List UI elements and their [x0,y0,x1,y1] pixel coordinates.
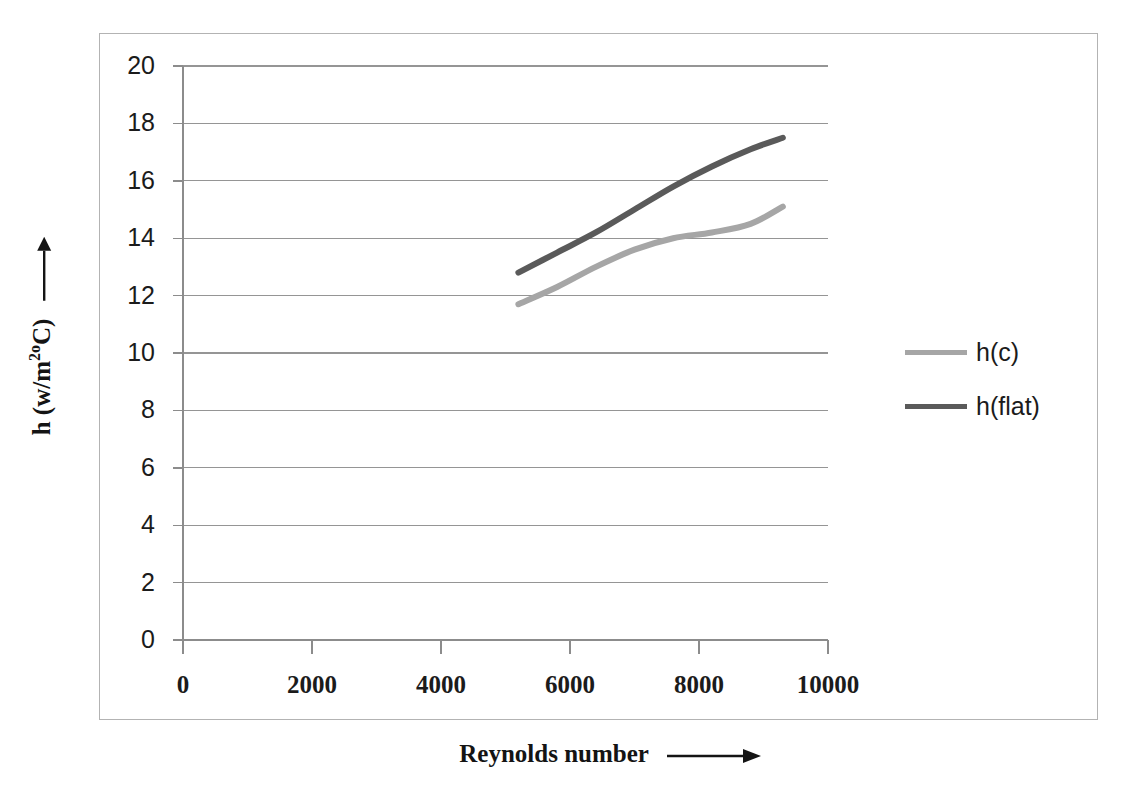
gridlines [183,66,828,640]
legend-item: h(c) [905,325,1095,379]
y-axis-title-tail: C) [28,319,55,345]
up-arrow-icon [30,236,58,302]
x-tick-label: 6000 [500,672,640,697]
y-axis-title: h (w/m2oC) [26,186,58,486]
y-tick-label: 6 [95,455,155,480]
y-tick-label: 0 [95,627,155,652]
x-tick-label: 2000 [242,672,382,697]
legend-label: h(c) [976,338,1019,367]
x-tick-label: 10000 [758,672,898,697]
x-tick-marks [183,640,828,654]
legend-line-swatch [905,404,967,409]
x-tick-label: 8000 [629,672,769,697]
y-tick-marks [173,66,183,640]
y-axis-title-superscript: 2o [26,345,43,361]
y-tick-label: 14 [95,225,155,250]
x-tick-label: 0 [113,672,253,697]
y-tick-label: 2 [95,570,155,595]
y-tick-label: 12 [95,283,155,308]
axis-lines [183,66,828,648]
legend-item: h(flat) [905,379,1095,433]
y-tick-label: 8 [95,397,155,422]
y-tick-label: 4 [95,512,155,537]
legend-line-swatch [905,350,967,355]
x-axis-title: Reynolds number [400,740,820,770]
x-axis-title-text: Reynolds number [459,740,648,767]
chart-legend: h(c)h(flat) [905,325,1095,433]
y-tick-label: 16 [95,168,155,193]
x-tick-label: 4000 [371,672,511,697]
data-series [518,138,782,304]
y-tick-label: 18 [95,110,155,135]
chart-screenshot: 02468101214161820 0200040006000800010000… [0,0,1130,787]
y-tick-label: 10 [95,340,155,365]
right-arrow-icon [665,742,761,770]
y-tick-label: 20 [95,53,155,78]
legend-label: h(flat) [976,392,1040,421]
y-axis-title-main: h (w/m [28,361,55,435]
